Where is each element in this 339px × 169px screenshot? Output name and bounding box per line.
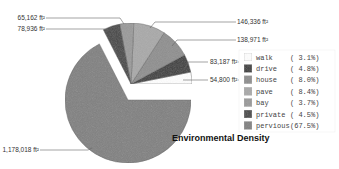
callout-line-private <box>46 29 108 30</box>
callout-label-private: 78,936 ft² <box>18 25 46 32</box>
legend-label: house <box>256 76 277 84</box>
legend-label: walk <box>256 54 273 62</box>
callout-line-pervious <box>40 148 92 150</box>
legend-label: drive <box>256 65 277 73</box>
callout-label-pave: 146,336 ft² <box>237 18 269 25</box>
legend-percent: ( 3.7%) <box>290 99 319 107</box>
legend-percent: (67.5%) <box>290 122 319 130</box>
callout-label-bay: 65,162 ft² <box>18 14 46 21</box>
legend-swatch <box>244 64 252 72</box>
callout-label-drive: 83,187 ft² <box>210 58 238 65</box>
legend-label: bay <box>256 99 269 107</box>
legend-swatch <box>244 53 252 61</box>
legend-percent: ( 4.8%) <box>290 65 319 73</box>
legend-label: private <box>256 111 285 119</box>
callout-line-pave <box>150 22 236 28</box>
legend-label: pave <box>256 88 273 96</box>
legend-swatch <box>244 121 252 129</box>
callout-label-walk: 54,800 ft² <box>210 76 238 83</box>
callout-line-house <box>172 40 236 46</box>
legend-swatch <box>244 99 252 107</box>
legend-swatch <box>244 110 252 118</box>
legend-percent: ( 8.0%) <box>290 76 319 84</box>
chart-title: Environmental Density <box>172 133 270 143</box>
callout-line-bay <box>46 18 124 24</box>
legend-swatch <box>244 87 252 95</box>
legend: walk( 3.1%)drive( 4.8%)house( 8.0%)pave(… <box>239 50 335 132</box>
legend-item-pervious[interactable]: pervious(67.5%) <box>244 121 319 129</box>
legend-item-private[interactable]: private( 4.5%) <box>244 110 319 119</box>
legend-frame <box>239 50 335 132</box>
pie-chart: 54,800 ft²83,187 ft²138,971 ft²146,336 f… <box>0 0 339 169</box>
legend-percent: ( 4.5%) <box>290 111 319 119</box>
legend-swatch <box>244 76 252 84</box>
callout-label-house: 138,971 ft² <box>237 36 269 43</box>
legend-percent: ( 8.4%) <box>290 88 319 96</box>
legend-percent: ( 3.1%) <box>290 54 319 62</box>
legend-label: pervious <box>256 122 290 130</box>
callout-label-pervious: 1,178,018 ft² <box>3 146 40 153</box>
